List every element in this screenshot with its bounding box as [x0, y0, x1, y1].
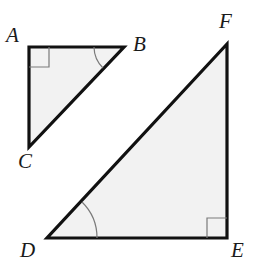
geometry-canvas — [0, 0, 253, 266]
vertex-label-b: B — [133, 34, 146, 55]
triangle-abc — [29, 47, 124, 147]
vertex-label-e: E — [231, 240, 244, 261]
vertex-label-c: C — [18, 151, 32, 172]
vertex-label-a: A — [6, 25, 19, 46]
vertex-label-d: D — [20, 240, 35, 261]
vertex-label-f: F — [219, 11, 232, 32]
geometry-figure: A B C D E F — [0, 0, 253, 266]
